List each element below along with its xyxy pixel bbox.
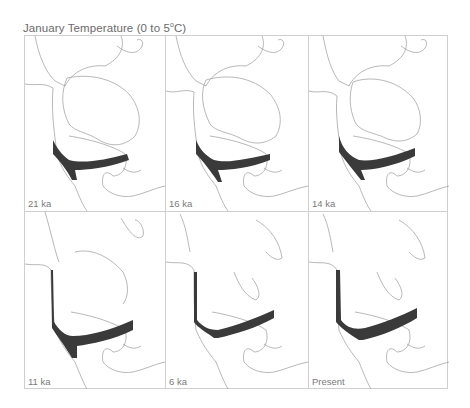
map-panel-16ka: 16 ka <box>166 36 308 211</box>
map-panel-21ka: 21 ka <box>25 36 165 211</box>
map-14ka <box>309 36 449 211</box>
panel-label: 16 ka <box>169 198 192 209</box>
temp-band <box>339 136 415 180</box>
temp-band <box>194 272 274 338</box>
map-panel-14ka: 14 ka <box>309 36 449 211</box>
panel-label: Present <box>312 376 345 387</box>
map-panel-11ka: 11 ka <box>25 212 165 389</box>
temp-band <box>51 270 133 358</box>
map-21ka <box>25 36 165 211</box>
map-16ka <box>166 36 308 211</box>
panel-label: 11 ka <box>28 376 51 387</box>
temp-band <box>53 140 129 180</box>
panel-label: 21 ka <box>28 198 51 209</box>
map-6ka <box>166 212 308 389</box>
map-grid: 21 ka 16 ka <box>24 35 448 389</box>
map-present <box>309 212 449 389</box>
panel-label: 14 ka <box>312 198 335 209</box>
chart-title: January Temperature (0 to 5oC) <box>23 21 186 34</box>
temp-band <box>336 270 417 340</box>
map-panel-6ka: 6 ka <box>166 212 308 389</box>
panel-label: 6 ka <box>169 376 187 387</box>
temp-band <box>196 140 270 182</box>
map-panel-present: Present <box>309 212 449 389</box>
map-11ka <box>25 212 165 389</box>
